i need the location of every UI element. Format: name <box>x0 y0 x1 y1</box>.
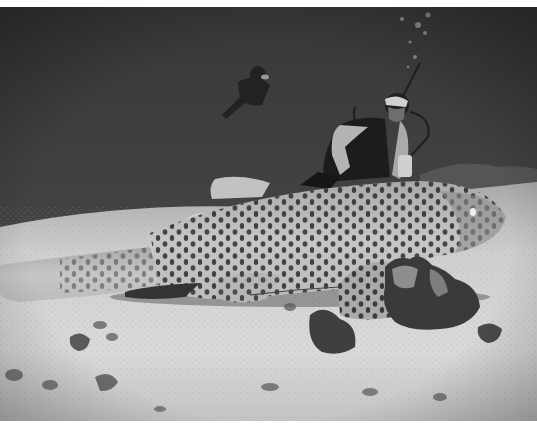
photo-frame <box>0 0 537 424</box>
underwater-photo <box>0 7 537 421</box>
